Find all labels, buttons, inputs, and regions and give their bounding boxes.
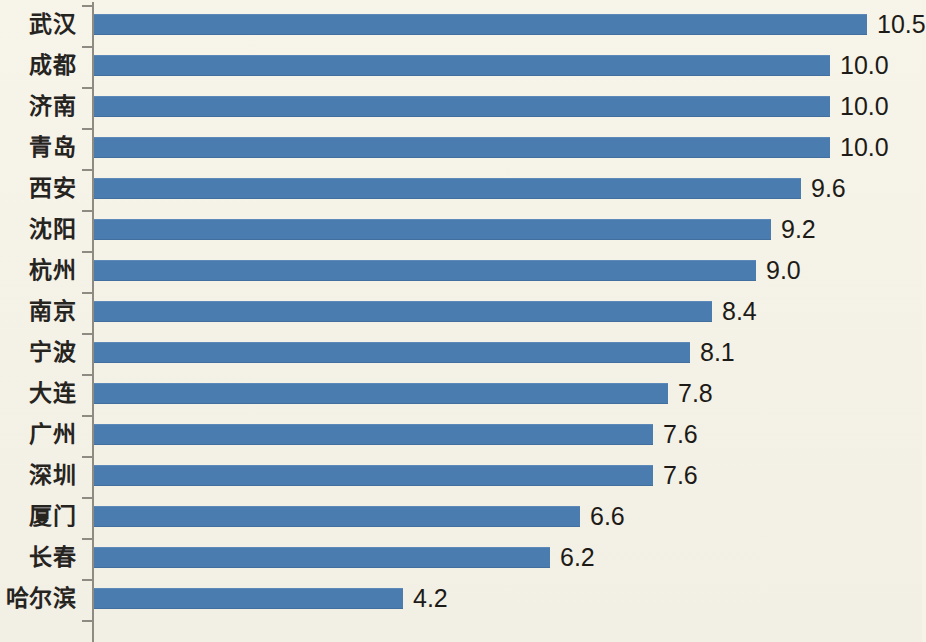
- bar-row: 济南10.0: [0, 86, 922, 127]
- axis-tick: [82, 620, 92, 622]
- bar-value-label: 9.0: [766, 260, 801, 281]
- bar-value-label: 4.2: [413, 588, 448, 609]
- category-label: 青岛: [0, 127, 76, 168]
- bar-row: 西安9.6: [0, 168, 922, 209]
- bar-row: 武汉10.5: [0, 4, 922, 45]
- bar: [94, 301, 712, 322]
- bar-value-label: 8.4: [722, 301, 757, 322]
- bar-value-label: 9.2: [781, 219, 816, 240]
- bar: [94, 178, 801, 199]
- bar-row: 南京8.4: [0, 291, 922, 332]
- bar: [94, 547, 550, 568]
- category-label: 哈尔滨: [0, 578, 76, 619]
- category-label: 广州: [0, 414, 76, 455]
- bar: [94, 14, 867, 35]
- bar-value-label: 7.6: [663, 465, 698, 486]
- bar-row: 长春6.2: [0, 537, 922, 578]
- category-label: 大连: [0, 373, 76, 414]
- category-label: 沈阳: [0, 209, 76, 250]
- bar: [94, 342, 690, 363]
- bar-value-label: 10.0: [840, 137, 889, 158]
- bar-row: 厦门6.6: [0, 496, 922, 537]
- bar-row: 大连7.8: [0, 373, 922, 414]
- bar: [94, 219, 771, 240]
- bar: [94, 55, 830, 76]
- bar-value-label: 8.1: [700, 342, 735, 363]
- bar: [94, 588, 403, 609]
- bar-value-label: 6.2: [560, 547, 595, 568]
- bar-value-label: 6.6: [590, 506, 625, 527]
- bar-value-label: 9.6: [811, 178, 846, 199]
- bar: [94, 465, 653, 486]
- category-label: 杭州: [0, 250, 76, 291]
- bar: [94, 506, 580, 527]
- category-label: 武汉: [0, 4, 76, 45]
- bar: [94, 383, 668, 404]
- bar: [94, 424, 653, 445]
- bar-row: 青岛10.0: [0, 127, 922, 168]
- bar: [94, 260, 756, 281]
- bar-value-label: 10.0: [840, 55, 889, 76]
- bar-value-label: 10.0: [840, 96, 889, 117]
- bar-value-label: 7.8: [678, 383, 713, 404]
- bar-value-label: 10.5: [877, 14, 926, 35]
- bar-value-label: 7.6: [663, 424, 698, 445]
- category-label: 深圳: [0, 455, 76, 496]
- category-label: 宁波: [0, 332, 76, 373]
- bar-row: 宁波8.1: [0, 332, 922, 373]
- bar-row: 广州7.6: [0, 414, 922, 455]
- bar-row: 深圳7.6: [0, 455, 922, 496]
- bar-row: 沈阳9.2: [0, 209, 922, 250]
- bar-row: 成都10.0: [0, 45, 922, 86]
- category-label: 长春: [0, 537, 76, 578]
- category-label: 南京: [0, 291, 76, 332]
- bar-row: 哈尔滨4.2: [0, 578, 922, 619]
- bar-row: 杭州9.0: [0, 250, 922, 291]
- bar: [94, 96, 830, 117]
- bar: [94, 137, 830, 158]
- category-label: 西安: [0, 168, 76, 209]
- category-label: 成都: [0, 45, 76, 86]
- category-label: 厦门: [0, 496, 76, 537]
- category-label: 济南: [0, 86, 76, 127]
